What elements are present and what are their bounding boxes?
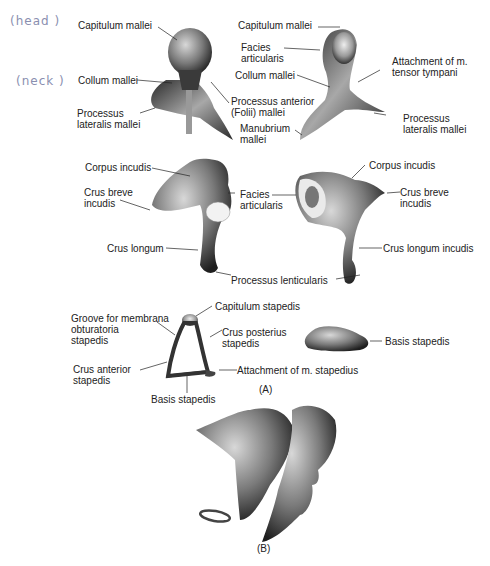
label-processus-anterior-mallei: Processus anterior (Folii) mallei [231,96,314,118]
label-manubrium-mallei: Manubrium mallei [240,123,290,145]
malleus-right-shape [300,29,385,140]
label-crus-longum-incudis-right: Crus longum incudis [383,243,474,254]
label-collum-mallei-right: Collum mallei [235,70,295,81]
assembled-ossicles-shape [196,406,336,542]
malleus-left-shape [151,28,233,140]
label-crus-posterius-stapedis: Crus posterius stapedis [222,327,286,349]
label-attachment-tensor-tympani: Attachment of m. tensor tympani [392,56,468,78]
stapes-shape [168,314,215,377]
label-basis-stapedis: Basis stapedis [151,394,215,405]
label-facies-articularis-malleus: Facies articularis [241,42,284,64]
label-capitulum-stapedis: Capitulum stapedis [215,301,300,312]
incus-left-shape [152,159,231,273]
label-facies-articularis-incus: Facies articularis [240,189,283,211]
label-processus-lateralis-mallei-right: Processus lateralis mallei [403,113,466,135]
label-groove-membrana-obturatoria: Groove for membrana obturatoria stapedis [71,313,169,346]
panel-a-caption: (A) [259,384,272,395]
label-crus-breve-incudis-right: Crus breve incudis [400,187,449,209]
label-attachment-stapedius: Attachment of m. stapedius [237,365,358,376]
label-processus-lateralis-mallei-left: Processus lateralis mallei [77,108,140,130]
stapes-footplate-shape [305,326,368,351]
label-capitulum-mallei-left: Capitulum mallei [78,20,152,31]
handwritten-neck-annotation: (neck ) [16,74,65,88]
label-corpus-incudis-right: Corpus incudis [369,160,435,171]
label-capitulum-mallei-right: Capitulum mallei [238,20,312,31]
label-crus-longum-left: Crus longum [107,243,164,254]
handwritten-head-annotation: (head ) [10,14,60,28]
label-basis-stapedis-footplate: Basis stapedis [385,336,449,347]
incus-right-shape [295,172,385,284]
label-corpus-incudis-left: Corpus incudis [85,162,151,173]
label-crus-breve-incudis-left: Crus breve incudis [84,187,133,209]
panel-b-caption: (B) [257,543,270,554]
label-processus-lenticularis: Processus lenticularis [231,275,328,286]
label-crus-anterior-stapedis: Crus anterior stapedis [73,364,131,386]
label-collum-mallei-left: Collum mallei [78,75,138,86]
